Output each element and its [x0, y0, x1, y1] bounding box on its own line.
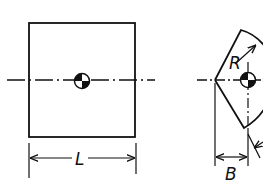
diagram-canvas: L R B: [0, 0, 263, 191]
radius-label-r: R: [229, 53, 241, 73]
angle-leader: [254, 142, 263, 148]
drawing: L R B: [0, 0, 263, 191]
dimension-label-l: L: [75, 149, 84, 169]
dimension-label-b: B: [225, 164, 237, 184]
oblique-edge-line: [248, 134, 260, 158]
center-of-gravity-icon: [75, 74, 90, 89]
square-view: L: [7, 23, 155, 178]
lower-edge: [215, 80, 263, 128]
center-of-gravity-icon: [241, 73, 256, 88]
lens-view: R B: [197, 30, 263, 184]
